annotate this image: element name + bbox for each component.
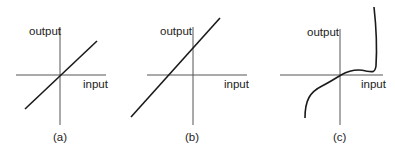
panel-c-curve [305, 7, 376, 118]
panel-a: output input (a) [16, 25, 109, 143]
panel-b-y-label: output [160, 25, 193, 37]
panel-c-caption: (c) [333, 131, 347, 143]
panel-b-caption: (b) [185, 131, 199, 143]
panel-b: output input (b) [131, 18, 250, 143]
panel-a-y-label: output [29, 25, 62, 37]
panel-b-x-label: input [224, 78, 250, 90]
panel-c: output input (c) [280, 7, 387, 143]
figure-canvas: output input (a) output input (b) output… [0, 0, 395, 151]
panel-a-caption: (a) [53, 131, 67, 143]
panel-c-y-label: output [307, 26, 340, 38]
panel-c-x-label: input [361, 78, 387, 90]
panel-a-x-label: input [83, 78, 109, 90]
